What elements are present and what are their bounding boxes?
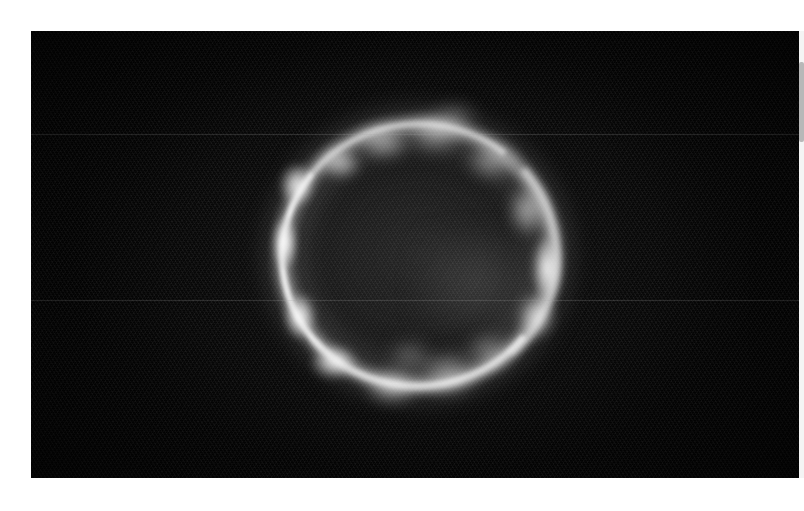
image-alt-text: Grayscale astronomical image of a bright… xyxy=(31,31,32,32)
knot-left-mid xyxy=(273,217,297,269)
ring-filament-second xyxy=(266,109,568,400)
page-title: Astronomical Ring Image xyxy=(0,21,1,22)
ring-main-shell xyxy=(275,117,561,393)
knot-bottom-left xyxy=(312,346,356,378)
knot-top-right xyxy=(468,142,516,178)
knot-bottom-far xyxy=(468,335,512,369)
knot-bottom-mid xyxy=(366,369,418,403)
vertical-scrollbar-thumb[interactable] xyxy=(799,62,804,142)
knot-left-lower xyxy=(285,294,315,338)
vertical-scrollbar-track[interactable] xyxy=(799,31,804,478)
page-root: Astronomical Ring Image Grayscale astron… xyxy=(0,0,804,511)
ring-bright-filament xyxy=(265,107,569,403)
knot-outer-topmid xyxy=(435,105,475,131)
knot-top-left xyxy=(357,126,409,158)
knot-top-mid xyxy=(408,113,464,151)
vignette-overlay xyxy=(31,31,804,478)
ring-diffuse-emission xyxy=(268,110,568,400)
knot-left-upper xyxy=(281,165,313,205)
diagonal-scanline-texture xyxy=(31,31,804,478)
ring-structure xyxy=(253,95,583,415)
knot-right-lower xyxy=(518,294,554,338)
central-glow xyxy=(415,230,545,338)
knot-right-upper xyxy=(510,186,546,234)
ring-interior-glow xyxy=(293,141,543,369)
horizontal-artifact-line-1 xyxy=(31,300,804,301)
diffuse-halo xyxy=(88,31,748,478)
diagonal-scanline-texture-alt xyxy=(31,31,804,478)
knot-right-bright xyxy=(533,236,561,300)
knot-inner-bottom xyxy=(390,342,430,370)
knot-bottom-right xyxy=(420,354,476,394)
horizontal-artifact-line-0 xyxy=(31,134,804,135)
astronomical-image[interactable]: Grayscale astronomical image of a bright… xyxy=(31,31,804,478)
knot-top-arc xyxy=(320,148,360,178)
horizontal-scanline-texture xyxy=(31,31,804,478)
